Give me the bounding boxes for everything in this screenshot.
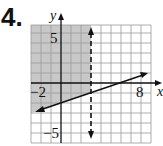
x-tick-8: 8 <box>136 84 144 100</box>
inequality-graph: y x 5 −5 −2 8 <box>0 0 163 146</box>
y-tick-5: 5 <box>50 30 58 46</box>
x-axis-label: x <box>156 84 163 99</box>
dashed-line-arrow-down-icon <box>88 131 94 139</box>
y-axis-arrow-icon <box>58 13 64 20</box>
y-axis-label: y <box>48 8 57 23</box>
y-tick-neg5: −5 <box>43 125 59 141</box>
x-tick-neg2: −2 <box>30 84 46 100</box>
